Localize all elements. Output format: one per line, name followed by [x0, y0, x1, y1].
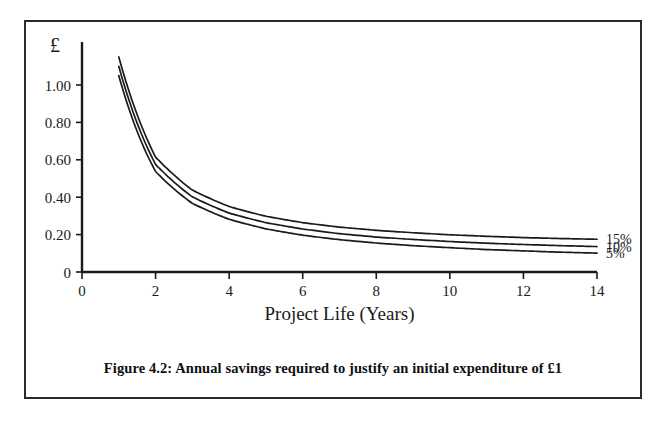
x-axis-title: Project Life (Years): [264, 303, 414, 325]
x-tick-label: 0: [78, 283, 86, 299]
axis-titles-group: Project Life (Years)£: [50, 34, 415, 325]
data-curve-5pct: [119, 76, 597, 253]
series-label-5pct: 5%: [606, 246, 625, 261]
x-tick-labels-group: 02468101214: [78, 283, 605, 299]
series-labels-group: 15%10%5%: [606, 232, 632, 261]
y-tick-label: 0.20: [45, 227, 71, 243]
x-tick-label: 8: [373, 283, 381, 299]
y-axis-unit-symbol: £: [50, 34, 60, 56]
x-tick-label: 10: [442, 283, 457, 299]
x-tick-label: 12: [516, 283, 531, 299]
y-tick-label: 0: [64, 265, 72, 281]
x-tick-label: 6: [299, 283, 307, 299]
figure-caption: Figure 4.2: Annual savings required to j…: [24, 360, 642, 377]
plot-area: 02468101214 00.200.400.600.801.00 15%10%…: [0, 0, 665, 421]
y-tick-label: 1.00: [45, 78, 71, 94]
chart-svg: 02468101214 00.200.400.600.801.00 15%10%…: [0, 0, 665, 421]
y-tick-labels-group: 00.200.400.600.801.00: [45, 78, 71, 281]
figure-container: 02468101214 00.200.400.600.801.00 15%10%…: [0, 0, 665, 421]
data-curve-10pct: [119, 66, 597, 246]
y-tick-label: 0.80: [45, 115, 71, 131]
x-tick-label: 4: [225, 283, 233, 299]
x-tick-label: 2: [152, 283, 160, 299]
data-curve-15pct: [119, 57, 597, 239]
data-curves-group: [119, 57, 597, 253]
y-tick-label: 0.60: [45, 152, 71, 168]
x-tick-label: 14: [590, 283, 606, 299]
y-tick-label: 0.40: [45, 190, 71, 206]
